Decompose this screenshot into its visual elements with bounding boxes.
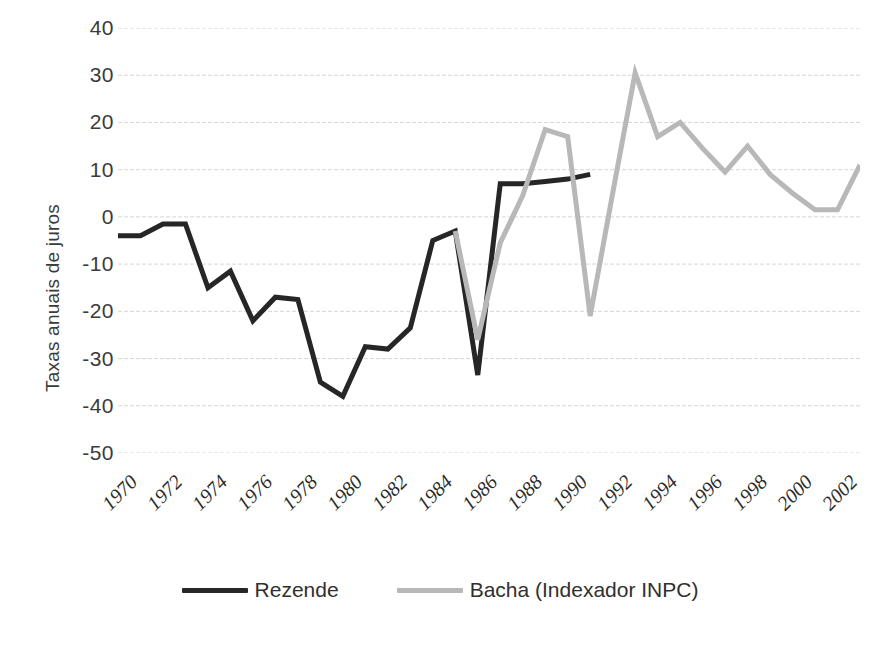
legend-item[interactable]: Bacha (Indexador INPC) [397,578,699,602]
chart-legend: RezendeBacha (Indexador INPC) [0,578,880,602]
line-chart: Taxas anuais de juros 403020100-10-20-30… [0,0,880,656]
legend-item[interactable]: Rezende [182,578,339,602]
legend-label: Bacha (Indexador INPC) [470,578,699,602]
legend-swatch-icon [182,588,248,593]
legend-label: Rezende [255,578,339,602]
x-axis-tick-labels: 1970197219741976197819801982198419861988… [0,0,880,656]
legend-swatch-icon [397,588,463,593]
